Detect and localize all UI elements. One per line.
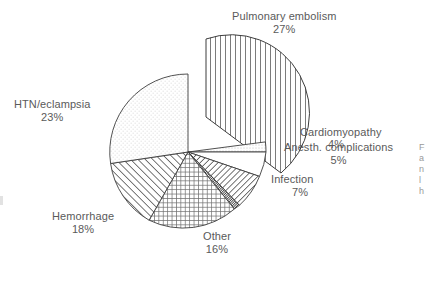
slice-label-name: Hemorrhage [52,210,114,222]
clipped-edge-line: a [419,153,428,164]
slice-label-value: 23% [14,111,91,124]
slice-label-name: HTN/eclampsia [14,98,91,110]
pie-chart-figure: Pulmonary embolism 27% HTN/eclampsia 23%… [0,0,428,281]
slice-label-hemorrhage: Hemorrhage 18% [52,210,114,235]
clipped-edge-line: l [419,175,428,186]
pie-slices [110,35,310,228]
slice-label-value: 16% [203,243,231,256]
slice-label-value: 18% [52,223,114,236]
clipped-edge-line: n [419,164,428,175]
pie-slice-htn-eclampsia[interactable] [110,74,188,164]
clipped-edge-line: h [419,186,428,197]
scan-artifact-mark [0,196,3,205]
slice-label-infection: Infection 7% [271,173,313,198]
slice-label-name: Infection [271,173,313,185]
clipped-edge-text: F a n l h [419,142,428,197]
slice-label-htn-eclampsia: HTN/eclampsia 23% [14,98,91,123]
pie-slice-cardiomyopathy[interactable] [188,142,266,152]
slice-label-value: 7% [271,186,313,199]
slice-label-name: Other [203,230,231,242]
slice-label-value: 27% [232,23,337,36]
slice-label-cardiomyopathy: Cardiomyopathy 4% [300,126,382,139]
clipped-edge-line: F [419,142,428,153]
slice-label-other: Other 16% [203,230,231,255]
slice-label-anesth-complications: Anesth. complications 5% [284,141,393,166]
slice-label-name: Anesth. complications [284,141,393,153]
slice-label-name: Pulmonary embolism [232,10,337,22]
slice-label-name: Cardiomyopathy [300,126,382,138]
slice-label-pulmonary-embolism: Pulmonary embolism 27% [232,10,337,35]
slice-label-value: 5% [284,154,393,167]
